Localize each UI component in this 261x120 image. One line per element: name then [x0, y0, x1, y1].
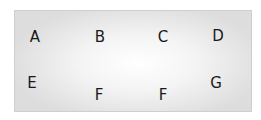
label-f-left: F: [95, 88, 104, 103]
label-g: G: [210, 76, 222, 91]
label-c: C: [158, 30, 168, 45]
label-f-right: F: [159, 88, 168, 103]
diagram-panel: [14, 10, 252, 112]
label-a: A: [30, 30, 40, 45]
label-e: E: [27, 76, 36, 91]
label-b: B: [95, 30, 105, 45]
label-d: D: [212, 29, 224, 44]
